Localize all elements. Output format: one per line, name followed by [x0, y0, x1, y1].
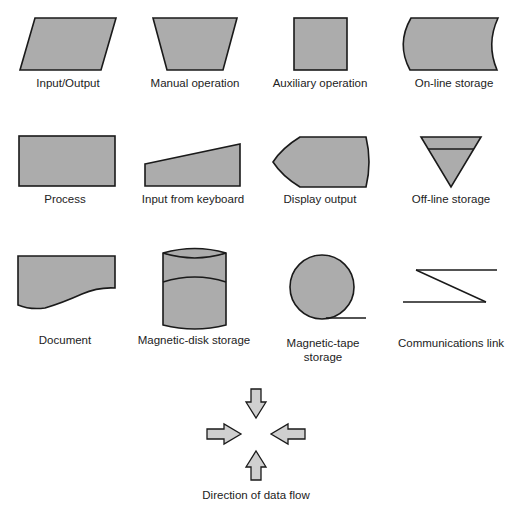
- label-magnetic-tape-storage: Magnetic-tape storage: [258, 336, 388, 364]
- arrow-up-icon: [246, 451, 266, 480]
- input-from-keyboard-symbol: [145, 144, 240, 186]
- label-document: Document: [0, 333, 130, 347]
- label-communications-link: Communications link: [386, 336, 516, 350]
- communications-link-symbol: [403, 270, 497, 302]
- label-input-from-keyboard: Input from keyboard: [128, 192, 258, 206]
- document-symbol: [18, 256, 115, 309]
- label-on-line-storage: On-line storage: [389, 76, 518, 90]
- label-display-output: Display output: [255, 192, 385, 206]
- label-input-output: Input/Output: [3, 76, 133, 90]
- manual-operation-symbol: [153, 18, 237, 70]
- on-line-storage-symbol: [403, 18, 498, 70]
- label-magnetic-tape-line1: Magnetic-tape: [258, 336, 388, 350]
- label-manual-operation: Manual operation: [130, 76, 260, 90]
- label-off-line-storage: Off-line storage: [386, 192, 516, 206]
- arrow-down-icon: [246, 389, 266, 418]
- label-magnetic-disk-storage: Magnetic-disk storage: [129, 333, 259, 347]
- label-magnetic-tape-line2: storage: [258, 350, 388, 364]
- input-output-symbol: [20, 18, 116, 70]
- arrow-right-icon: [207, 424, 241, 444]
- magnetic-tape-storage-symbol: [290, 255, 354, 319]
- display-output-symbol: [273, 137, 369, 187]
- magnetic-disk-storage-symbol: [163, 249, 226, 330]
- label-process: Process: [0, 192, 130, 206]
- off-line-storage-symbol: [421, 137, 481, 187]
- auxiliary-operation-symbol: [294, 18, 347, 70]
- process-symbol: [19, 136, 115, 186]
- arrow-left-icon: [271, 424, 305, 444]
- label-auxiliary-operation: Auxiliary operation: [255, 76, 385, 90]
- label-direction-of-data-flow: Direction of data flow: [191, 488, 321, 502]
